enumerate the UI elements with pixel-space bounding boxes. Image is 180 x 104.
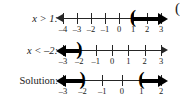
bracket-close-paren: ) — [79, 69, 85, 88]
axis-tick — [91, 13, 92, 24]
axis-tick-label: 1 — [126, 56, 130, 66]
axis-tick-label: –4 — [59, 24, 68, 34]
ray-arrowhead-right-icon — [158, 75, 168, 87]
axis-tick-label: 0 — [120, 86, 124, 96]
number-line-1: –4–3–2–10123( — [56, 10, 168, 40]
axis-tick — [161, 45, 162, 56]
number-line-row-solution: Solution: –3–2–1012)( — [0, 72, 180, 104]
axis-tick — [77, 13, 78, 24]
bracket-open-paren: ( — [130, 7, 136, 26]
ray-arrowhead-left-icon — [56, 45, 66, 57]
axis-tick-label: –3 — [59, 56, 68, 66]
axis-tick — [63, 13, 64, 24]
axis-tick — [145, 45, 146, 56]
axis-tick-label: 3 — [159, 56, 163, 66]
ray-arrowhead-right-icon — [158, 13, 168, 25]
row-label-x-greater-than-1: x > 1: — [32, 13, 58, 25]
axis-tick — [105, 13, 106, 24]
axis-tick-label: –2 — [87, 24, 96, 34]
axis-tick — [128, 45, 129, 56]
axis-tick — [112, 45, 113, 56]
solution-ray-right — [133, 17, 158, 21]
bracket-open-paren: ( — [138, 69, 144, 88]
axis-tick-label: 2 — [145, 24, 149, 34]
bracket-close-paren: ) — [76, 39, 82, 58]
axis-tick-label: 3 — [159, 24, 163, 34]
ray-arrowhead-left-icon — [56, 75, 66, 87]
axis-tick-label: –3 — [59, 86, 68, 96]
axis-tick — [122, 75, 123, 86]
inequality-number-line-figure: { "figure": { "stray_mark": "(", "rows":… — [0, 0, 180, 104]
axis-tick-label: 2 — [143, 56, 147, 66]
axis-tick-label: –1 — [98, 86, 107, 96]
row-label-x-less-than-neg2: x < –2: — [27, 45, 58, 57]
axis-tick-label: –1 — [91, 56, 100, 66]
axis-tick — [96, 45, 97, 56]
axis-tick-label: 2 — [159, 86, 163, 96]
number-line-row-x-greater-than-1: x > 1: –4–3–2–10123( — [0, 10, 180, 42]
axis-tick — [102, 75, 103, 86]
number-line-3: –3–2–1012)( — [56, 72, 168, 102]
axis-tick-label: 0 — [117, 24, 121, 34]
number-line-2: –3–2–10123) — [56, 42, 168, 72]
axis-tick-label: –1 — [101, 24, 110, 34]
number-line-row-x-less-than-neg2: x < –2: –3–2–10123) — [0, 42, 180, 74]
row-label-solution: Solution: — [19, 75, 58, 87]
axis-arrow-right-icon — [161, 46, 168, 54]
axis-arrow-left-icon — [56, 14, 63, 22]
axis-tick-label: –3 — [73, 24, 82, 34]
axis-tick-label: 0 — [110, 56, 114, 66]
axis-tick — [119, 13, 120, 24]
